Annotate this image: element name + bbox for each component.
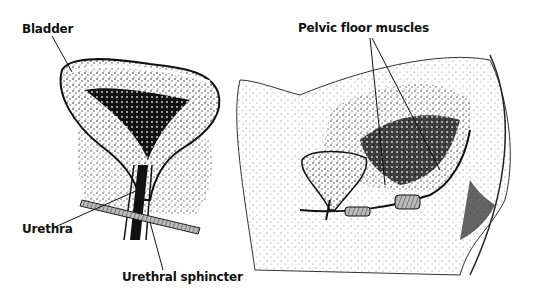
label-urethra: Urethra bbox=[22, 222, 73, 236]
anatomy-diagram: Bladder Urethra Urethral sphincter Pelvi… bbox=[0, 0, 536, 298]
label-bladder: Bladder bbox=[22, 22, 73, 36]
label-pelvic-floor-muscles: Pelvic floor muscles bbox=[298, 21, 429, 35]
label-urethral-sphincter: Urethral sphincter bbox=[122, 270, 243, 284]
pelvis-illustration bbox=[237, 55, 511, 275]
illustration bbox=[0, 0, 536, 298]
